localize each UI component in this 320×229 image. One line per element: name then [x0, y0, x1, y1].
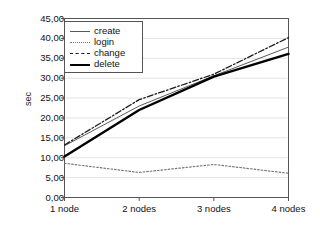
legend-item-create: create — [65, 25, 142, 36]
legend-item-change: change — [65, 47, 142, 58]
legend-label-delete: delete — [91, 59, 120, 69]
plot-area — [0, 0, 320, 229]
legend-item-login: login — [65, 36, 142, 47]
legend-swatch-delete-icon — [69, 59, 91, 69]
x-tick-label: 1 node — [50, 203, 79, 214]
line-chart: sec 0,005,0010,0015,0020,0025,0030,0035,… — [0, 0, 320, 229]
legend-swatch-create-icon — [69, 26, 91, 36]
legend-label-login: login — [91, 37, 114, 47]
x-axis-tick-labels: 1 node2 nodes3 nodes4 nodes — [0, 203, 320, 219]
legend-label-change: change — [91, 48, 125, 58]
legend-swatch-login-icon — [69, 37, 91, 47]
legend-item-delete: delete — [65, 58, 142, 69]
series-line-login — [65, 163, 289, 173]
x-tick-label: 2 nodes — [122, 203, 156, 214]
legend-swatch-change-icon — [69, 48, 91, 58]
legend: create login change delete — [64, 21, 143, 73]
x-tick-label: 3 nodes — [197, 203, 231, 214]
x-tick-label: 4 nodes — [272, 203, 306, 214]
legend-label-create: create — [91, 26, 120, 36]
